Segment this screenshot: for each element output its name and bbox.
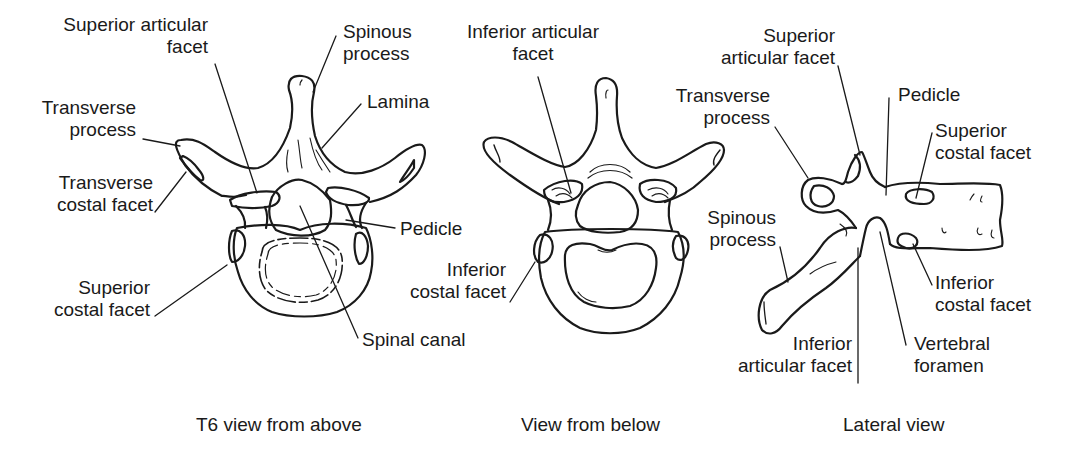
caption-view-from-below: View from below (521, 414, 660, 436)
label-spinous-process-above: Spinous process (343, 21, 412, 65)
label-superior-costal-facet-lateral: Superior costal facet (935, 120, 1031, 164)
label-superior-articular-facet-above: Superior articular facet (32, 14, 208, 58)
vertebra-illustration (0, 0, 1065, 451)
label-superior-articular-facet-lateral: Superior articular facet (700, 25, 835, 69)
label-inferior-costal-facet-lateral: Inferior costal facet (935, 272, 1031, 316)
label-spinous-process-lateral: Spinous process (672, 207, 776, 251)
label-pedicle-above: Pedicle (400, 218, 462, 240)
label-vertebral-foramen-lateral: Vertebral foramen (914, 333, 990, 377)
caption-lateral-view: Lateral view (843, 414, 944, 436)
label-lamina-above: Lamina (367, 91, 429, 113)
caption-view-from-above: T6 view from above (196, 414, 362, 436)
label-transverse-costal-facet-above: Transverse costal facet (20, 172, 153, 216)
label-inferior-costal-facet-below: Inferior costal facet (410, 259, 506, 303)
label-pedicle-lateral: Pedicle (898, 84, 960, 106)
label-inferior-articular-facet-lateral: Inferior articular facet (700, 333, 852, 377)
label-superior-costal-facet-above: Superior costal facet (20, 277, 150, 321)
label-spinal-canal-above: Spinal canal (362, 329, 466, 351)
label-transverse-process-above: Transverse process (10, 97, 136, 141)
label-transverse-process-lateral: Transverse process (666, 85, 770, 129)
label-inferior-articular-facet-below: Inferior articular facet (448, 21, 618, 65)
